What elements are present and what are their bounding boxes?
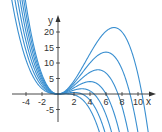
x-tick-label: 4 bbox=[87, 97, 92, 107]
curves bbox=[11, 0, 149, 132]
y-tick-label: -5 bbox=[46, 105, 54, 115]
y-tick-label: 15 bbox=[44, 43, 54, 53]
curve-r-6 bbox=[19, 0, 121, 132]
x-tick-label: 6 bbox=[103, 97, 108, 107]
x-tick-label: 8 bbox=[119, 97, 124, 107]
y-axis-label: y bbox=[48, 15, 53, 26]
curve-r-9 bbox=[23, 0, 139, 132]
x-tick-label: 2 bbox=[71, 97, 76, 107]
curve-r-4_5 bbox=[17, 0, 113, 132]
x-tick-label: -2 bbox=[38, 97, 46, 107]
x-tick-label: -4 bbox=[22, 97, 30, 107]
y-axis-arrow-icon bbox=[56, 15, 61, 22]
x-axis-label: x bbox=[146, 96, 151, 107]
x-tick-label: 10 bbox=[133, 97, 143, 107]
y-tick-label: 10 bbox=[44, 58, 54, 68]
y-tick-label: 5 bbox=[49, 74, 54, 84]
y-tick-label: 20 bbox=[44, 27, 54, 37]
curve-family-chart: x y -4-2246810-55101520 bbox=[0, 0, 162, 132]
